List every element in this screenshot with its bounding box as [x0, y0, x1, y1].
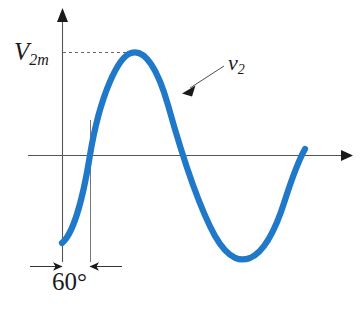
phase-angle-label: 60° — [52, 268, 87, 296]
peak-amplitude-base: V — [14, 38, 29, 65]
peak-amplitude-label: V2m — [14, 38, 49, 69]
callout-arrowhead-icon — [182, 86, 196, 97]
waveform-label: v2 — [228, 50, 245, 78]
x-axis-arrowhead-icon — [341, 150, 353, 161]
waveform-callout-leader — [182, 66, 224, 97]
waveform-label-subscript: 2 — [238, 62, 245, 77]
peak-amplitude-subscript: 2m — [29, 51, 49, 68]
y-axis-arrowhead-icon — [57, 8, 68, 22]
figure-root: V2m v2 60° — [0, 0, 360, 319]
waveform-label-base: v — [228, 50, 238, 75]
y-axis — [57, 8, 68, 262]
callout-leader-line — [190, 66, 224, 88]
